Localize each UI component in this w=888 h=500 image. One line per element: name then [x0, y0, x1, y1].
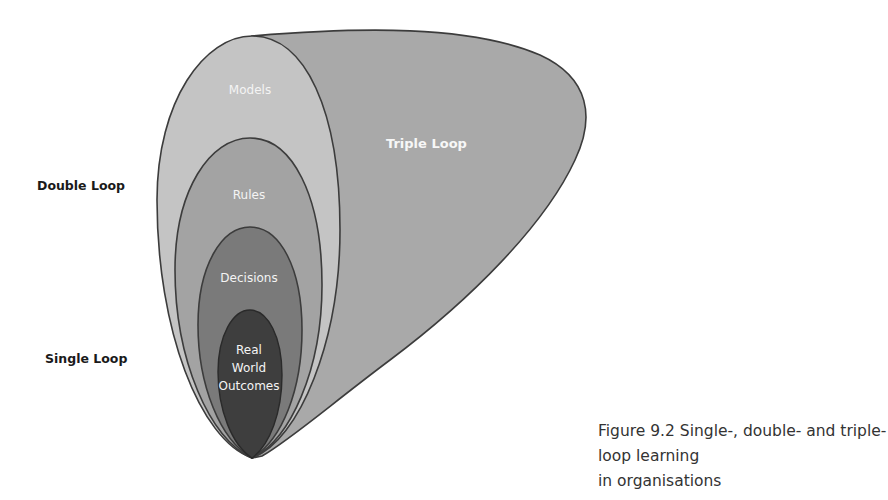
models-label: Models [229, 83, 271, 97]
decisions-label: Decisions [220, 271, 277, 285]
outcomes-line-3: Outcomes [218, 377, 279, 395]
outcomes-line-2: World [218, 359, 279, 377]
single-loop-label: Single Loop [45, 351, 127, 366]
triple-loop-label: Triple Loop [386, 136, 467, 151]
double-loop-label: Double Loop [37, 178, 125, 193]
caption-line-1: Figure 9.2 Single-, double- and triple-l… [598, 419, 888, 469]
figure-caption: Figure 9.2 Single-, double- and triple-l… [598, 419, 888, 494]
caption-line-2: in organisations [598, 469, 888, 494]
real-world-outcomes-label: Real World Outcomes [218, 341, 279, 395]
outcomes-line-1: Real [218, 341, 279, 359]
rules-label: Rules [233, 188, 265, 202]
